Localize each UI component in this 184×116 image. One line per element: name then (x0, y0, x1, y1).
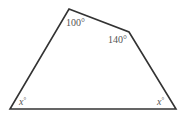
degree-symbol-bottom-left: ° (23, 96, 26, 104)
angle-label-bottom-left: x° (18, 96, 26, 107)
quadrilateral-diagram: 100° 140° x° x° (0, 0, 184, 116)
angle-label-top-left: 100° (66, 17, 85, 28)
quadrilateral-shape (10, 9, 176, 109)
degree-symbol-bottom-right: ° (161, 96, 164, 104)
angle-label-bottom-right: x° (156, 96, 164, 107)
angle-label-top-right: 140° (108, 34, 127, 45)
